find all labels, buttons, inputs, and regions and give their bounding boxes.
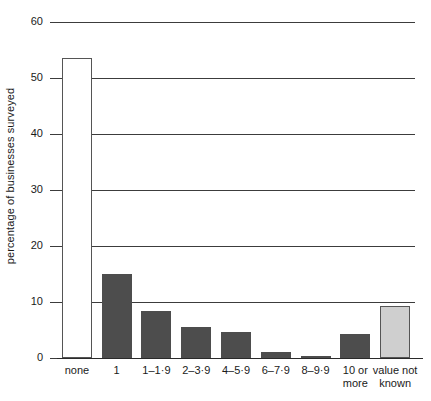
y-tick-mark-30	[50, 190, 57, 191]
y-tick-mark-40	[50, 134, 57, 135]
gridline-20	[57, 246, 415, 247]
y-axis-title-label: percentage of businesses surveyed	[4, 46, 16, 306]
gridline-40	[57, 134, 415, 135]
y-tick-label: 50	[9, 71, 43, 83]
y-tick-mark-20	[50, 246, 57, 247]
bar-6	[301, 356, 331, 358]
x-tick-label: value notknown	[368, 364, 422, 390]
y-tick-mark-60	[50, 22, 57, 23]
y-tick-label: 20	[9, 239, 43, 251]
gridline-30	[57, 190, 415, 191]
bar-3	[181, 327, 211, 358]
bar-5	[261, 352, 291, 358]
y-tick-label: 0	[9, 351, 43, 363]
bar-1	[102, 274, 132, 358]
y-axis-title: percentage of businesses surveyed	[0, 0, 22, 401]
y-tick-label: 10	[9, 295, 43, 307]
gridline-50	[57, 78, 415, 79]
gridline-60	[57, 22, 415, 23]
y-tick-label: 30	[9, 183, 43, 195]
y-tick-mark-0	[50, 358, 57, 359]
bar-8	[380, 306, 410, 358]
y-tick-mark-10	[50, 302, 57, 303]
bar-7	[340, 334, 370, 358]
y-tick-label: 40	[9, 127, 43, 139]
y-tick-label: 60	[9, 15, 43, 27]
plot-area	[57, 22, 415, 358]
bar-2	[141, 311, 171, 358]
y-tick-mark-50	[50, 78, 57, 79]
bar-0	[62, 58, 92, 358]
bar-4	[221, 332, 251, 358]
x-axis-baseline	[57, 358, 423, 359]
bar-chart: percentage of businesses surveyed 010203…	[0, 0, 431, 401]
